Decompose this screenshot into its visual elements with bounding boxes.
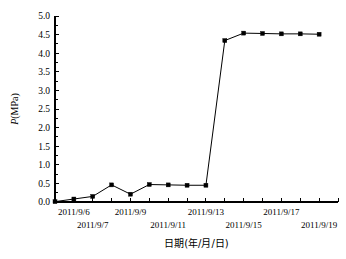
series-line <box>55 33 319 202</box>
y-tick-label: 3.0 <box>38 86 50 96</box>
y-tick-label: 3.5 <box>38 67 50 77</box>
y-axis: 0.00.51.01.52.02.53.03.54.04.55.0 <box>38 11 59 207</box>
y-tick-label: 0.0 <box>38 197 50 207</box>
x-tick-label-row1: 2011/9/13 <box>188 207 225 217</box>
data-point-marker <box>91 194 95 198</box>
data-point-marker <box>204 183 208 187</box>
chart-container: 0.00.51.01.52.02.53.03.54.04.55.0 2011/9… <box>0 0 346 259</box>
y-tick-label: 1.5 <box>38 142 50 152</box>
data-point-marker <box>128 192 132 196</box>
data-point-marker <box>166 183 170 187</box>
y-tick-label: 1.0 <box>38 160 50 170</box>
x-tick-label-row1: 2011/9/17 <box>263 207 300 217</box>
y-axis-title-symbol: P <box>9 119 20 126</box>
y-tick-label: 2.0 <box>38 123 50 133</box>
y-tick-label: 0.5 <box>38 179 50 189</box>
x-axis-title: 日期(年/月/日) <box>164 237 229 249</box>
x-tick-label-row2: 2011/9/7 <box>77 220 109 230</box>
x-tick-label-row2: 2011/9/11 <box>150 220 186 230</box>
x-tick-label-row1: 2011/9/6 <box>58 207 90 217</box>
y-axis-title-unit: (MPa) <box>9 93 21 119</box>
data-point-marker <box>298 32 302 36</box>
data-point-marker <box>261 31 265 35</box>
data-point-marker <box>223 39 227 43</box>
data-point-marker <box>185 183 189 187</box>
y-axis-title: P(MPa) <box>9 93 21 126</box>
data-series <box>53 31 321 204</box>
x-tick-label-row2: 2011/9/19 <box>301 220 338 230</box>
data-point-marker <box>147 183 151 187</box>
y-tick-label: 4.5 <box>38 30 50 40</box>
data-point-marker <box>242 31 246 35</box>
y-tick-label: 4.0 <box>38 49 50 59</box>
y-tick-label: 5.0 <box>38 11 50 21</box>
line-chart: 0.00.51.01.52.02.53.03.54.04.55.0 2011/9… <box>0 0 346 259</box>
data-point-marker <box>279 32 283 36</box>
data-point-marker <box>110 183 114 187</box>
axis-labels: P(MPa)日期(年/月/日) <box>9 93 229 249</box>
x-tick-label-row2: 2011/9/15 <box>226 220 263 230</box>
x-axis: 2011/9/62011/9/92011/9/132011/9/172011/9… <box>55 198 338 230</box>
data-point-marker <box>317 32 321 36</box>
y-tick-label: 2.5 <box>38 104 50 114</box>
data-point-marker <box>72 197 76 201</box>
x-tick-label-row1: 2011/9/9 <box>115 207 147 217</box>
data-point-marker <box>53 200 57 204</box>
